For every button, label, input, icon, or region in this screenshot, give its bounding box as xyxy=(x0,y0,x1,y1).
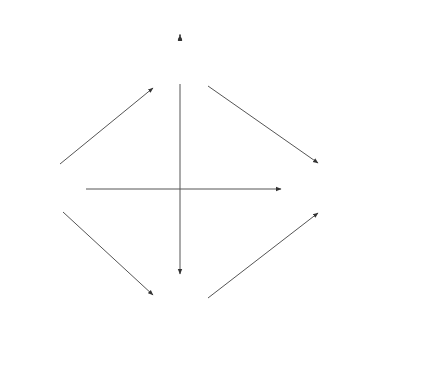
path-f-edge xyxy=(208,213,318,298)
path-diagram xyxy=(0,0,421,382)
path-a-edge xyxy=(60,88,153,164)
path-e-edge xyxy=(208,86,318,163)
path-c-edge xyxy=(63,212,153,295)
